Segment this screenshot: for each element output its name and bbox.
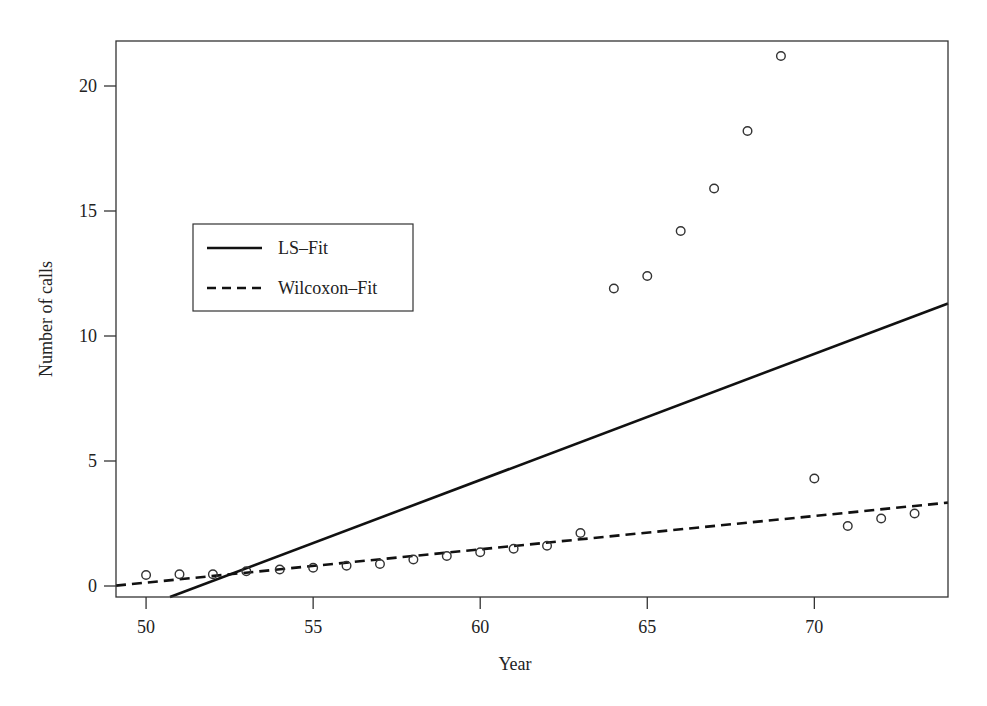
data-point [409,555,418,564]
legend: LS–Fit Wilcoxon–Fit [193,224,413,311]
x-axis: 5055606570 [137,597,823,637]
data-point [910,509,919,518]
data-point [175,570,184,579]
data-point [576,529,585,538]
x-tick-label: 60 [471,617,489,637]
y-tick-label: 0 [88,576,97,596]
data-point [777,52,786,61]
x-tick-label: 70 [805,617,823,637]
data-point [843,522,852,531]
y-tick-label: 5 [88,451,97,471]
y-tick-label: 15 [79,201,97,221]
chart: 5055606570 05101520 Year Number of calls… [0,0,987,706]
data-point [810,474,819,483]
legend-label-ls-fit: LS–Fit [278,238,328,258]
data-point [376,560,385,569]
data-point [676,227,685,236]
data-point [743,127,752,136]
x-tick-label: 65 [638,617,656,637]
x-tick-label: 55 [304,617,322,637]
data-point [877,514,886,523]
y-tick-label: 20 [79,76,97,96]
data-point [442,552,451,561]
data-point [610,284,619,293]
data-point [142,571,151,580]
x-tick-label: 50 [137,617,155,637]
y-axis: 05101520 [79,76,116,596]
wilcoxon-fit-line [116,503,948,586]
x-axis-title: Year [498,654,531,674]
legend-label-wilcoxon-fit: Wilcoxon–Fit [278,278,377,298]
data-point [710,184,719,193]
data-points [142,52,919,580]
data-point [643,272,652,281]
data-point [509,544,518,553]
y-tick-label: 10 [79,326,97,346]
ls-fit-line [170,304,948,597]
fit-lines [116,304,948,597]
y-axis-title: Number of calls [36,261,56,377]
plot-frame [116,41,948,597]
data-point [476,548,485,557]
